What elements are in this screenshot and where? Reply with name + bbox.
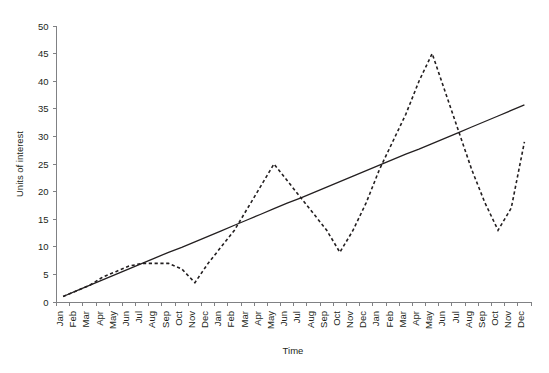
x-tick-label: Feb <box>384 311 395 327</box>
y-axis: 05101520253035404550 Units of interest <box>14 21 57 308</box>
x-tick-label: Oct <box>489 311 500 326</box>
x-tick-label: May <box>265 311 276 329</box>
y-axis-title: Units of interest <box>14 131 25 197</box>
y-tick-label: 15 <box>38 214 49 225</box>
x-tick-label: Nov <box>344 311 355 328</box>
y-tick-label: 40 <box>38 76 49 87</box>
x-tick-label: Nov <box>502 311 513 328</box>
x-tick-label: Mar <box>239 311 250 327</box>
x-tick-label: Jul <box>133 311 144 323</box>
x-axis: JanFebMarAprMayJunJulAugSepOctNovDecJanF… <box>54 302 531 356</box>
x-tick-label: Mar <box>80 311 91 327</box>
x-tick-label: Dec <box>515 311 526 328</box>
x-tick-label: Jun <box>120 311 131 326</box>
data-series-trend <box>63 105 524 297</box>
x-tick-label: Feb <box>67 311 78 327</box>
x-tick-label: Sep <box>160 311 171 328</box>
x-tick-label: Jan <box>212 311 223 326</box>
x-tick-label: Sep <box>476 311 487 328</box>
y-tick-label: 10 <box>38 241 49 252</box>
chart-container: 05101520253035404550 Units of interest J… <box>0 0 549 373</box>
x-tick-label: Jul <box>291 311 302 323</box>
y-axis-tick-labels: 05101520253035404550 <box>38 21 49 308</box>
x-tick-label: Dec <box>199 311 210 328</box>
x-tick-label: Jan <box>54 311 65 326</box>
x-tick-label: Jul <box>450 311 461 323</box>
line-chart: 05101520253035404550 Units of interest J… <box>0 0 549 373</box>
x-tick-label: Jun <box>278 311 289 326</box>
y-tick-label: 45 <box>38 48 49 59</box>
y-tick-label: 0 <box>43 297 48 308</box>
x-tick-label: Jun <box>436 311 447 326</box>
x-axis-title: Time <box>283 345 304 356</box>
x-tick-label: Jan <box>370 311 381 326</box>
x-tick-label: Apr <box>410 311 421 326</box>
y-tick-label: 35 <box>38 103 49 114</box>
x-tick-label: Dec <box>357 311 368 328</box>
y-tick-label: 30 <box>38 131 49 142</box>
x-tick-label: Aug <box>146 311 157 328</box>
y-axis-ticks <box>53 26 57 302</box>
y-tick-label: 5 <box>43 269 48 280</box>
x-tick-label: May <box>107 311 118 329</box>
y-tick-label: 25 <box>38 159 49 170</box>
data-series-units-of-interest <box>63 54 524 297</box>
x-tick-label: Oct <box>331 311 342 326</box>
x-tick-label: Apr <box>94 311 105 326</box>
plot-area <box>63 54 524 297</box>
x-tick-label: Oct <box>173 311 184 326</box>
y-tick-label: 20 <box>38 186 49 197</box>
x-axis-tick-labels: JanFebMarAprMayJunJulAugSepOctNovDecJanF… <box>54 311 526 329</box>
x-tick-label: Feb <box>225 311 236 327</box>
x-tick-label: Aug <box>463 311 474 328</box>
y-tick-label: 50 <box>38 21 49 32</box>
x-tick-label: Nov <box>186 311 197 328</box>
x-tick-label: Sep <box>318 311 329 328</box>
x-tick-label: Mar <box>397 311 408 327</box>
x-tick-label: Apr <box>252 311 263 326</box>
x-tick-label: Aug <box>305 311 316 328</box>
x-tick-label: May <box>423 311 434 329</box>
